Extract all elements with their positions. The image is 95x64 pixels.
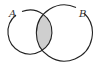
venn-diagram: A B bbox=[0, 0, 95, 64]
label-a: A bbox=[8, 8, 16, 19]
label-b: B bbox=[78, 8, 86, 19]
